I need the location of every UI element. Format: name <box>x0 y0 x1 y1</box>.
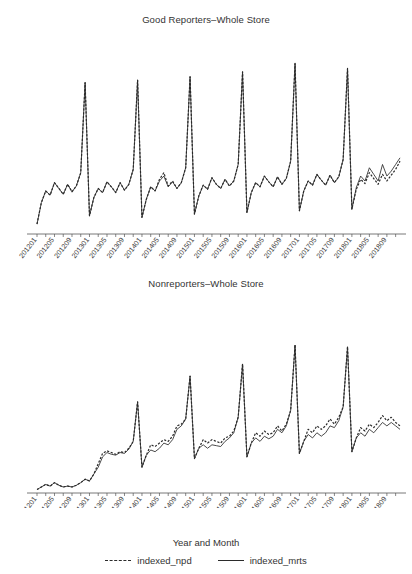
x-axis-tick-label: 201809 <box>368 495 389 508</box>
x-axis-tick-label: 201309 <box>105 495 126 508</box>
legend-item-indexed-mrts: indexed_mrts <box>218 556 307 566</box>
x-axis-tick-label: 201409 <box>158 495 179 508</box>
x-axis-tick-label: 201801 <box>333 495 354 508</box>
x-axis-tick-label: 201605 <box>245 495 266 508</box>
x-axis-tick-label: 201701 <box>280 495 301 508</box>
plot-area-good-reporters: 2012012012052012092013012013052013092014… <box>0 14 412 276</box>
x-axis-tick-label: 201609 <box>263 495 284 508</box>
legend-key-dashed-icon <box>105 557 131 564</box>
x-axis-tick-label: 201501 <box>175 495 196 508</box>
legend-label-indexed-mrts: indexed_mrts <box>250 556 307 566</box>
x-axis-tick-label: 201601 <box>228 495 249 508</box>
series-line-indexed-mrts <box>37 63 400 224</box>
legend-key-solid-icon <box>218 557 244 564</box>
x-axis-tick-label: 201505 <box>193 495 214 508</box>
figure-container: Good Reporters–Whole Store 2012012012052… <box>0 0 412 574</box>
x-axis-tick-label: 201201 <box>18 495 39 508</box>
x-axis-tick-label: 201809 <box>368 236 389 260</box>
x-axis-tick-label: 201405 <box>140 495 161 508</box>
legend-item-indexed-npd: indexed_npd <box>105 556 191 566</box>
x-axis-tick-label: 201805 <box>350 495 371 508</box>
series-line-indexed-npd <box>37 63 400 224</box>
x-axis-tick-label: 201301 <box>70 495 91 508</box>
x-axis-label: Year and Month <box>0 537 412 548</box>
chart-panel-nonreporters: Nonreporters–Whole Store 201201201205201… <box>0 278 412 508</box>
x-axis-tick-label: 201509 <box>210 495 231 508</box>
x-axis-tick-label: 201205 <box>35 495 56 508</box>
series-line-indexed-npd <box>37 345 400 490</box>
x-axis-tick-label: 201709 <box>315 495 336 508</box>
chart-legend: indexed_npd indexed_mrts <box>0 556 412 566</box>
x-axis-tick-label: 201401 <box>123 495 144 508</box>
x-axis-tick-label: 201209 <box>53 495 74 508</box>
x-axis-tick-label: 201305 <box>88 495 109 508</box>
chart-panel-good-reporters: Good Reporters–Whole Store 2012012012052… <box>0 14 412 276</box>
legend-label-indexed-npd: indexed_npd <box>137 556 191 566</box>
plot-area-nonreporters: 2012012012052012092013012013052013092014… <box>0 278 412 508</box>
x-axis-tick-label: 201705 <box>298 495 319 508</box>
